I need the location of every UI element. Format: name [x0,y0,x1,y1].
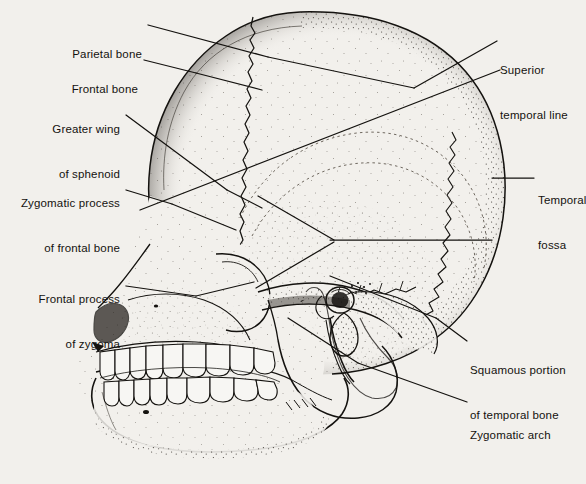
leader-zygomatic-arch [358,363,467,402]
label-zygomatic-arch: Zygomatic arch [470,398,586,473]
skull-anatomy-figure: Parietal bone Frontal bone Greater wing … [0,0,586,484]
label-superior-temporal-line: Superior temporal line [500,33,586,153]
label-frontal-process-of-zygoma: Frontal process of zygoma [0,262,120,382]
label-temporal-fossa: Temporal fossa [538,163,586,283]
leader-frontal-bone [144,60,196,73]
